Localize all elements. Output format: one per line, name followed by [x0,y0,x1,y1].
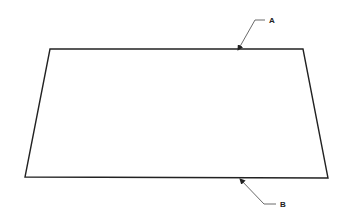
leader-line-b [240,179,276,204]
leader-line-a [238,20,265,50]
trapezoid-shape [25,49,328,178]
label-b: B [280,200,286,209]
callout-a: A [238,16,275,50]
diagram-canvas: A B [0,0,349,221]
label-a: A [269,16,275,25]
callout-b: B [240,179,286,209]
